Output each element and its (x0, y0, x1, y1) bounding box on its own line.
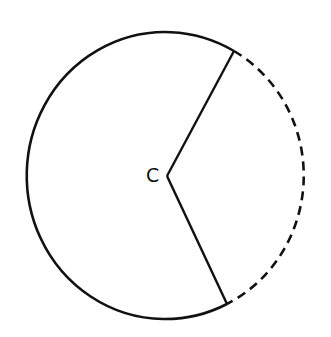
radius-upper (167, 51, 234, 176)
major-arc-solid (27, 32, 234, 319)
center-label: C (146, 166, 159, 185)
minor-arc-dashed (227, 51, 304, 304)
circle-diagram (0, 0, 331, 337)
radius-lower (167, 176, 227, 304)
